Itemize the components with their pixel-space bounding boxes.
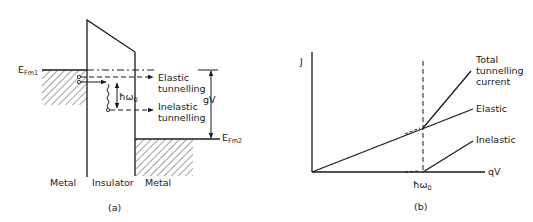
electron-elastic [77,75,80,78]
inelastic-curve [423,141,473,172]
total-current-label-1: Total [475,54,498,65]
bias-voltage-label: gV [203,94,216,105]
panel-b-iv-chart: J qV ħω0 Total tunnelling current Elasti… [299,52,524,212]
elastic-tunnelling-label-2: tunnelling [158,83,206,94]
region-label-insulator: Insulator [92,177,134,188]
inelastic-curve-label: Inelastic [476,134,516,145]
electron-after-phonon [106,108,109,111]
total-current-label-3: current [476,76,511,87]
elastic-curve-label: Elastic [476,103,507,114]
x-axis-label: qV [488,166,501,177]
inelastic-tunnelling-label-1: Inelastic [158,101,198,112]
elastic-tunnelling-label-1: Elastic [158,72,189,83]
elastic-curve [312,109,473,172]
fermi-level-left-label: EFm1 [18,64,38,77]
panel-b-caption: (b) [414,201,427,212]
region-label-left-metal: Metal [50,177,76,188]
threshold-label: ħω0 [413,179,432,192]
left-metal-filled-states [42,70,87,105]
phonon-emission-wavy-icon [107,84,109,110]
y-axis-label: J [299,56,303,67]
region-label-right-metal: Metal [145,177,171,188]
right-metal-filled-states [135,139,193,176]
inelastic-tunnelling-label-2: tunnelling [158,112,206,123]
panel-a-caption: (a) [108,202,121,213]
tunnelling-diagram: ħω0 gV EFm1 EFm2 Elastic tunnelling Inel… [0,0,533,222]
total-current-label-2: tunnelling [476,65,524,76]
electron-inelastic [77,80,80,83]
panel-a-energy-diagram: ħω0 gV EFm1 EFm2 Elastic tunnelling Inel… [18,20,242,213]
fermi-level-right-label: EFm2 [222,132,242,145]
